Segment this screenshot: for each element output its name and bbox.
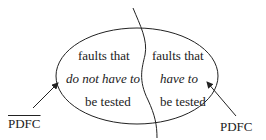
left-region-line1: faults that [78, 49, 130, 62]
right-region-line3: be tested [160, 95, 206, 108]
fault-set-diagram: faults that do not have to be tested fau… [0, 0, 266, 140]
left-region-line2: do not have to [66, 72, 140, 85]
left-region-line3: be tested [85, 95, 131, 108]
left-pointer-arrow [33, 83, 58, 108]
right-region-line2: have to [160, 72, 198, 85]
right-pointer-arrow [207, 82, 236, 116]
pdfc-label: PDFC [220, 120, 253, 133]
pdfc-complement-label: PDFC [8, 117, 41, 130]
right-region-line1: faults that [152, 49, 204, 62]
